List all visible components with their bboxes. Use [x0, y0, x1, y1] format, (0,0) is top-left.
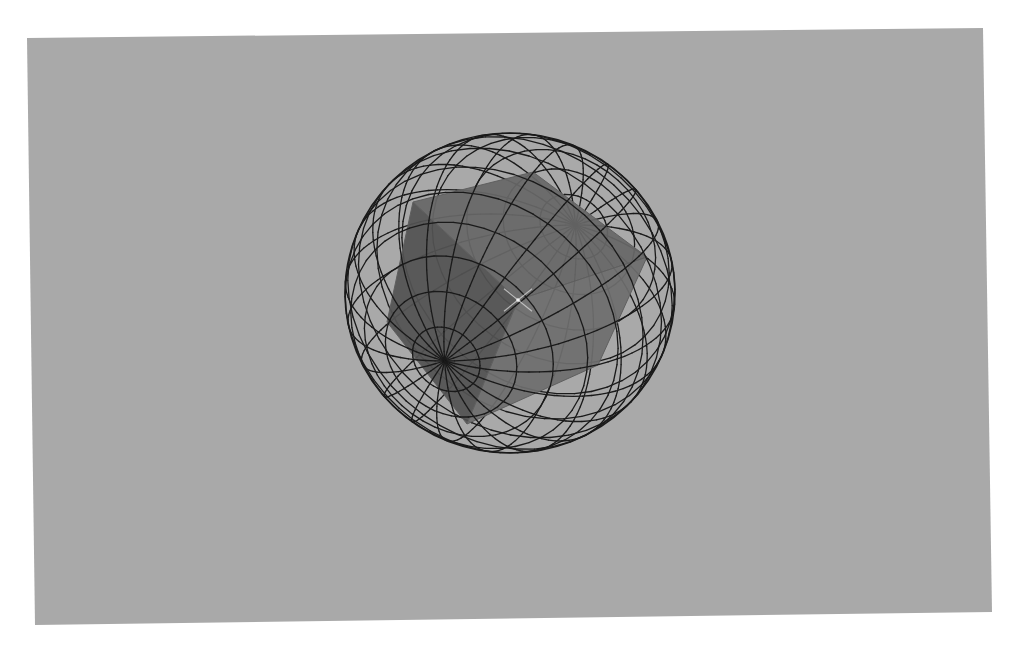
sphere-longitude-line	[399, 239, 400, 248]
sphere-longitude-line	[427, 230, 428, 240]
sphere-latitude-line	[364, 328, 365, 340]
sphere-latitude-line	[655, 258, 656, 269]
sphere-longitude-line	[549, 440, 556, 441]
sphere-latitude-line	[385, 334, 386, 342]
sphere-longitude-line	[554, 396, 564, 397]
sphere-longitude-line	[550, 371, 560, 372]
sphere-latitude-line	[553, 364, 554, 375]
sphere-longitude-line	[437, 423, 438, 428]
sphere-longitude-line	[647, 346, 648, 354]
sphere-longitude-line	[507, 371, 518, 372]
sphere-latitude-line	[385, 342, 386, 350]
sphere-longitude-line	[647, 361, 648, 368]
sphere-longitude-line	[455, 360, 465, 361]
sphere-longitude-line	[562, 441, 568, 442]
sphere-latitude-line	[516, 359, 517, 367]
sphere-longitude-line	[497, 370, 508, 371]
sphere-longitude-line	[399, 213, 400, 221]
sphere-longitude-line	[452, 145, 458, 146]
sphere-longitude-line	[465, 360, 475, 361]
sphere-longitude-line	[444, 311, 445, 321]
sphere-longitude-line	[465, 145, 472, 146]
sphere-latitude-line	[553, 352, 554, 364]
sphere-longitude-line	[427, 270, 428, 280]
sphere-latitude-line	[364, 317, 365, 328]
sphere-longitude-line	[622, 214, 628, 215]
sphere-latitude-line	[655, 246, 656, 258]
sphere-longitude-line	[566, 421, 574, 422]
sphere-longitude-line	[417, 360, 426, 361]
sphere-longitude-line	[354, 253, 355, 259]
sphere-longitude-line	[437, 393, 438, 400]
sphere-longitude-line	[373, 233, 374, 241]
sphere-longitude-line	[620, 338, 621, 347]
sphere-longitude-line	[431, 165, 439, 166]
sphere-latitude-line	[516, 367, 517, 375]
sphere-longitude-line	[621, 365, 622, 373]
sphere-longitude-line	[373, 218, 374, 225]
sphere-latitude-line	[351, 299, 352, 313]
sphere-longitude-line	[437, 400, 438, 407]
sphere-longitude-line	[494, 451, 498, 452]
render-viewport	[0, 0, 1022, 651]
sparkle-core	[516, 298, 520, 302]
sphere-longitude-line	[399, 371, 406, 372]
sphere-longitude-line	[392, 372, 398, 373]
sphere-longitude-line	[522, 135, 526, 136]
sphere-longitude-line	[583, 396, 592, 397]
figure-stage	[0, 0, 1022, 651]
sphere-longitude-line	[582, 186, 583, 193]
sphere-longitude-line	[445, 301, 446, 311]
sphere-longitude-line	[582, 421, 590, 422]
